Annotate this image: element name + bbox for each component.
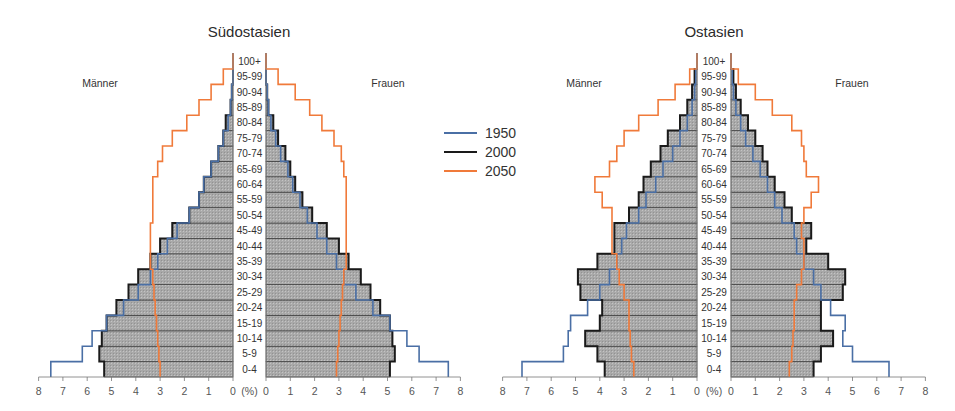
x-tick-label: 6 (409, 385, 415, 397)
age-group-label: 30-34 (701, 271, 727, 282)
bar-2000-maenner (218, 146, 233, 161)
age-group-label: 85-89 (237, 102, 263, 113)
x-tick-label: 5 (109, 385, 115, 397)
bar-2000-frauen (731, 269, 845, 284)
bar-2000-maenner (102, 331, 233, 346)
bar-2000-maenner (204, 177, 233, 192)
chart-title: Südostasien (208, 23, 291, 40)
label-frauen: Frauen (835, 77, 868, 89)
bar-2000-frauen (266, 208, 312, 223)
age-group-label: 60-64 (701, 179, 727, 190)
age-group-label: 40-44 (701, 241, 727, 252)
x-tick-label: 1 (670, 385, 676, 397)
bar-2000-frauen (731, 315, 821, 330)
x-tick-label: 3 (621, 385, 627, 397)
age-group-label: 45-49 (701, 225, 727, 236)
bar-2000-frauen (266, 146, 285, 161)
bar-2000-frauen (266, 115, 273, 130)
age-group-label: 100+ (703, 56, 726, 67)
age-group-label: 35-39 (701, 256, 727, 267)
age-group-label: 10-14 (237, 333, 263, 344)
bar-2000-maenner (172, 223, 233, 238)
bar-2000-frauen (731, 146, 763, 161)
label-frauen: Frauen (371, 77, 404, 89)
age-group-label: 75-79 (237, 133, 263, 144)
bar-2000-frauen (266, 315, 390, 330)
x-tick-label: 5 (573, 385, 579, 397)
bar-2000-maenner (99, 346, 233, 361)
pyramid-ostasien: OstasienMännerFrauen0-45-910-1415-1920-2… (500, 23, 929, 397)
bar-2000-frauen (266, 300, 380, 315)
x-tick-label: 0 (728, 385, 734, 397)
age-group-label: 65-69 (237, 164, 263, 175)
x-tick-label: 1 (287, 385, 293, 397)
population-pyramids-chart: SüdostasienMännerFrauen0-45-910-1415-192… (0, 0, 955, 411)
age-group-label: 60-64 (237, 179, 263, 190)
bar-2000-frauen (266, 362, 390, 377)
x-tick-label: 3 (336, 385, 342, 397)
bar-2000-maenner (150, 254, 233, 269)
x-tick-label: 0 (694, 385, 700, 397)
x-tick-label: 4 (825, 385, 831, 397)
x-tick-label: 3 (801, 385, 807, 397)
age-group-label: 95-99 (701, 71, 727, 82)
legend: 195020002050 (444, 125, 516, 179)
x-tick-label: 8 (500, 385, 506, 397)
bar-2000-frauen (731, 223, 811, 238)
bar-2000-maenner (614, 238, 697, 253)
bar-2000-maenner (661, 146, 697, 161)
bar-2000-maenner (211, 161, 233, 176)
bar-2000-frauen (731, 285, 843, 300)
age-group-label: 15-19 (701, 318, 727, 329)
bar-2000-maenner (199, 192, 233, 207)
age-group-label: 70-74 (237, 148, 263, 159)
bar-2000-maenner (223, 131, 233, 146)
x-tick-label: 7 (524, 385, 530, 397)
label-maenner: Männer (82, 77, 118, 89)
label-maenner: Männer (566, 77, 602, 89)
bar-2000-maenner (160, 238, 233, 253)
x-tick-label: 2 (312, 385, 318, 397)
age-group-label: 80-84 (701, 117, 727, 128)
bar-2000-maenner (639, 192, 697, 207)
bar-2000-frauen (731, 346, 821, 361)
x-tick-label: 6 (84, 385, 90, 397)
bar-2000-frauen (731, 238, 806, 253)
x-tick-label: 3 (157, 385, 163, 397)
age-group-label: 25-29 (237, 287, 263, 298)
age-group-label: 90-94 (701, 87, 727, 98)
age-group-label: 80-84 (237, 117, 263, 128)
bar-2000-maenner (189, 208, 233, 223)
age-group-label: 75-79 (701, 133, 727, 144)
bar-2000-frauen (266, 331, 392, 346)
x-tick-label: 1 (752, 385, 758, 397)
bar-2000-frauen (731, 331, 833, 346)
age-group-label: 95-99 (237, 71, 263, 82)
age-group-label: 55-59 (701, 194, 727, 205)
bar-2000-frauen (266, 285, 370, 300)
legend-label-2050: 2050 (485, 163, 516, 179)
x-tick-label: 2 (181, 385, 187, 397)
age-group-label: 70-74 (701, 148, 727, 159)
bar-2000-frauen (266, 238, 339, 253)
age-group-label: 10-14 (701, 333, 727, 344)
x-tick-label: 8 (457, 385, 463, 397)
bar-2000-maenner (668, 131, 697, 146)
bar-2000-maenner (226, 115, 233, 130)
age-group-label: 15-19 (237, 318, 263, 329)
x-tick-label: 6 (874, 385, 880, 397)
x-tick-label: 1 (206, 385, 212, 397)
bar-2000-frauen (731, 254, 828, 269)
age-group-label: 5-9 (242, 348, 257, 359)
pyramid-suedostasien: SüdostasienMännerFrauen0-45-910-1415-192… (36, 23, 464, 397)
age-group-label: 30-34 (237, 271, 263, 282)
bar-2000-frauen (266, 269, 361, 284)
x-tick-label: 8 (922, 385, 928, 397)
x-tick-label: 7 (433, 385, 439, 397)
age-group-label: 90-94 (237, 87, 263, 98)
age-group-label: 50-54 (237, 210, 263, 221)
x-tick-label: 7 (60, 385, 66, 397)
bar-2000-frauen (731, 362, 814, 377)
x-tick-label: 7 (898, 385, 904, 397)
age-group-label: 0-4 (707, 364, 722, 375)
